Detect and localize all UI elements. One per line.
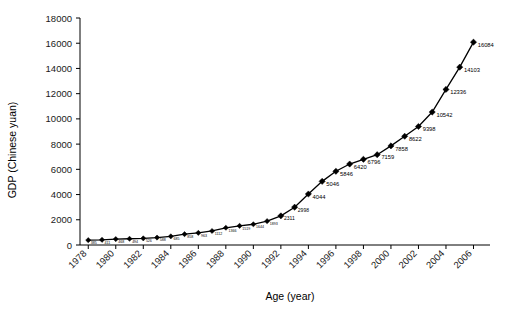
data-point-value-label: 685 xyxy=(173,237,179,241)
data-point-value-label: 5046 xyxy=(326,181,339,187)
data-point-value-label: 9398 xyxy=(423,126,436,132)
data-point-value-label: 494 xyxy=(132,240,138,244)
data-point-value-label: 6420 xyxy=(354,164,367,170)
y-tick-label: 14000 xyxy=(46,63,72,74)
data-point-value-label: 1112 xyxy=(215,232,222,236)
x-axis-title: Age (year) xyxy=(265,290,314,302)
data-point-value-label: 14103 xyxy=(464,67,480,73)
data-point-value-label: 468 xyxy=(118,240,124,244)
chart-background xyxy=(0,0,519,315)
y-tick-label: 0 xyxy=(67,240,72,251)
data-point-value-label: 858 xyxy=(187,235,193,239)
y-axis-title: GDP (Chinese yuan) xyxy=(6,102,18,199)
data-point-value-label: 12336 xyxy=(450,89,466,95)
y-tick-label: 4000 xyxy=(51,189,72,200)
data-point-value-label: 1644 xyxy=(256,225,264,229)
data-point-value-label: 2311 xyxy=(284,215,295,221)
y-tick-label: 16000 xyxy=(46,38,72,49)
y-tick-label: 8000 xyxy=(51,139,72,150)
data-point-value-label: 1893 xyxy=(270,222,278,226)
data-point-value-label: 2998 xyxy=(298,207,309,213)
data-point-value-label: 526 xyxy=(146,239,152,243)
y-tick-label: 18000 xyxy=(46,13,72,24)
y-tick-label: 10000 xyxy=(46,113,72,124)
y-tick-label: 6000 xyxy=(51,164,72,175)
data-point-value-label: 7159 xyxy=(381,154,394,160)
data-point-value-label: 5846 xyxy=(340,171,353,177)
data-point-value-label: 1366 xyxy=(228,229,236,233)
data-point-value-label: 7858 xyxy=(395,146,408,152)
y-tick-label: 12000 xyxy=(46,88,72,99)
data-point-value-label: 588 xyxy=(160,238,166,242)
data-point-value-label: 16084 xyxy=(478,42,495,48)
data-point-value-label: 963 xyxy=(201,234,207,238)
chart-svg: 0200040006000800010000120001400016000180… xyxy=(0,0,519,315)
data-point-value-label: 1519 xyxy=(242,227,250,231)
data-point-value-label: 8622 xyxy=(409,136,422,142)
data-point-value-label: 411 xyxy=(105,241,111,245)
data-point-value-label: 4044 xyxy=(313,194,327,200)
data-point-value-label: 385 xyxy=(91,241,97,245)
gdp-line-chart: 0200040006000800010000120001400016000180… xyxy=(0,0,519,315)
data-point-value-label: 6796 xyxy=(368,159,381,165)
y-tick-label: 2000 xyxy=(51,214,72,225)
data-point-value-label: 10542 xyxy=(436,112,452,118)
